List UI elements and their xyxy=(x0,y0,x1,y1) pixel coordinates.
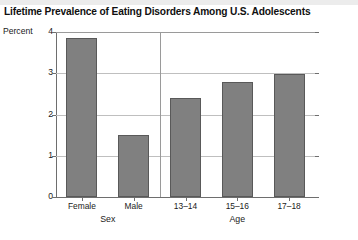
group-label-age: Age xyxy=(197,214,277,224)
y-tick-mark xyxy=(52,197,56,198)
chart-title: Lifetime Prevalence of Eating Disorders … xyxy=(4,6,354,17)
y-tick-mark xyxy=(315,156,319,157)
x-category-label: 17–18 xyxy=(249,201,329,211)
y-tick-mark xyxy=(315,73,319,74)
y-tick-mark xyxy=(52,73,56,74)
y-tick-mark xyxy=(315,197,319,198)
page-top-band xyxy=(0,0,358,5)
y-tick-mark xyxy=(52,32,56,33)
bar-male xyxy=(118,135,149,197)
y-tick-mark xyxy=(315,115,319,116)
y-tick-mark xyxy=(52,115,56,116)
bar-17-18 xyxy=(274,74,305,197)
group-divider xyxy=(160,32,161,197)
bar-female xyxy=(66,38,97,197)
group-label-sex: Sex xyxy=(68,214,148,224)
plot-area xyxy=(56,32,315,197)
y-axis-label: Percent xyxy=(3,26,33,36)
y-tick-mark xyxy=(52,156,56,157)
y-tick-mark xyxy=(315,32,319,33)
gridline xyxy=(56,32,315,33)
bar-15-16 xyxy=(222,82,253,197)
chart-figure: Lifetime Prevalence of Eating Disorders … xyxy=(0,0,358,240)
bar-13-14 xyxy=(170,98,201,197)
